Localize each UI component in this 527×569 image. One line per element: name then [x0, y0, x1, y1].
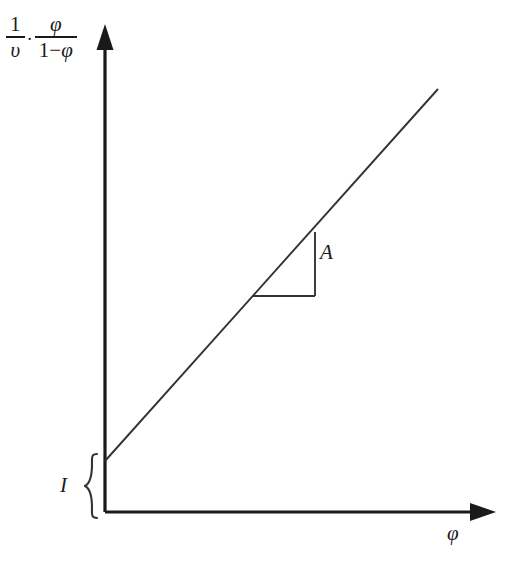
intercept-brace-icon: [78, 452, 100, 520]
first-fraction-denominator: υ: [6, 38, 24, 61]
data-line: [105, 89, 438, 461]
first-fraction-numerator: 1: [6, 14, 25, 36]
x-axis-label: φ: [447, 523, 459, 544]
second-fraction-denominator: 1−φ: [35, 38, 77, 61]
second-fraction-numerator: φ: [46, 14, 66, 36]
intercept-label: I: [60, 475, 67, 496]
y-axis-label: 1 υ · φ 1−φ: [6, 14, 77, 61]
plot-figure: 1 υ · φ 1−φ φ A I: [0, 0, 527, 569]
multiplication-dot: ·: [25, 29, 35, 48]
slope-label: A: [320, 242, 333, 263]
second-fraction-denominator-phi: φ: [61, 38, 73, 62]
y-axis-label-second-fraction: φ 1−φ: [35, 14, 77, 61]
y-axis-label-first-fraction: 1 υ: [6, 14, 25, 61]
x-axis-arrowhead-icon: [470, 503, 496, 521]
second-fraction-denominator-minus: −: [49, 38, 61, 62]
second-fraction-denominator-one: 1: [39, 38, 50, 62]
y-axis-arrowhead-icon: [97, 24, 114, 50]
